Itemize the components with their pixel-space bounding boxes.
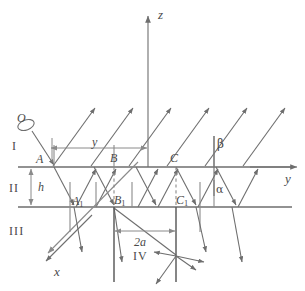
layer3-ray-4 bbox=[196, 207, 206, 252]
point-label-C1-subscript: 1 bbox=[184, 199, 188, 208]
zigzag-down-2 bbox=[94, 167, 114, 205]
escaping-ray-1 bbox=[53, 108, 95, 166]
dimension-label-2a: 2a bbox=[134, 236, 146, 248]
angle-label-alpha: α bbox=[216, 184, 223, 195]
point-label-B1-subscript: 1 bbox=[121, 199, 125, 208]
point-label-C1-letter: C bbox=[176, 193, 184, 207]
axis-label-x: x bbox=[54, 265, 60, 278]
dimension-y bbox=[51, 138, 147, 162]
point-label-C: C bbox=[170, 152, 178, 164]
escaping-refracted-rays bbox=[53, 108, 285, 166]
escaping-ray-6 bbox=[243, 108, 285, 166]
source-label-O: O bbox=[17, 112, 26, 124]
region-label-IV: IV bbox=[133, 250, 148, 262]
layer3-ray-2 bbox=[114, 207, 122, 262]
layer3-ray-1 bbox=[74, 207, 82, 252]
point-label-A1: A1 bbox=[72, 195, 84, 209]
escaping-ray-3 bbox=[129, 108, 171, 166]
scatter-ray-down-left bbox=[156, 256, 176, 284]
normal-lines bbox=[54, 136, 214, 232]
point-label-A: A bbox=[36, 153, 43, 165]
interface-lines bbox=[18, 167, 292, 207]
region-label-II: II bbox=[9, 182, 19, 194]
diagram-canvas bbox=[0, 0, 305, 291]
layer3-ray-3 bbox=[232, 207, 242, 262]
region-label-I: I bbox=[12, 140, 17, 152]
dimension-label-y: y bbox=[92, 136, 97, 148]
dimension-label-h: h bbox=[38, 181, 44, 193]
point-label-A1-subscript: 1 bbox=[79, 200, 83, 209]
zigzag-up-6 bbox=[238, 169, 258, 207]
axis-group bbox=[46, 16, 297, 261]
zigzag-up-5 bbox=[198, 169, 218, 207]
escaping-ray-5 bbox=[205, 108, 247, 166]
axis-label-z: z bbox=[158, 8, 163, 21]
axis-label-y: y bbox=[285, 172, 291, 185]
angle-label-beta: β bbox=[217, 138, 224, 150]
scatter-rays bbox=[154, 252, 204, 284]
point-label-C1: C1 bbox=[176, 194, 188, 208]
region-III-rays bbox=[74, 207, 242, 282]
ray-diagram-figure: z y x I II III IV O A B C A1 B1 C1 β α y… bbox=[0, 0, 305, 291]
point-label-B1: B1 bbox=[114, 194, 126, 208]
zigzag-down-1 bbox=[54, 167, 74, 205]
x-axis bbox=[46, 215, 92, 261]
region-label-III: III bbox=[9, 225, 24, 237]
zigzag-down-3 bbox=[136, 167, 156, 205]
guided-zigzag-rays bbox=[54, 167, 258, 207]
point-label-B: B bbox=[110, 152, 117, 164]
zigzag-up-4 bbox=[158, 169, 178, 207]
zigzag-up-3 bbox=[138, 169, 158, 207]
